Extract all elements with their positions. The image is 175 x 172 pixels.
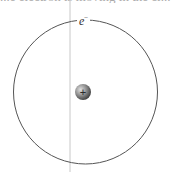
nucleus-plus-sign: + — [80, 86, 86, 98]
electron-label: e− — [77, 12, 90, 27]
